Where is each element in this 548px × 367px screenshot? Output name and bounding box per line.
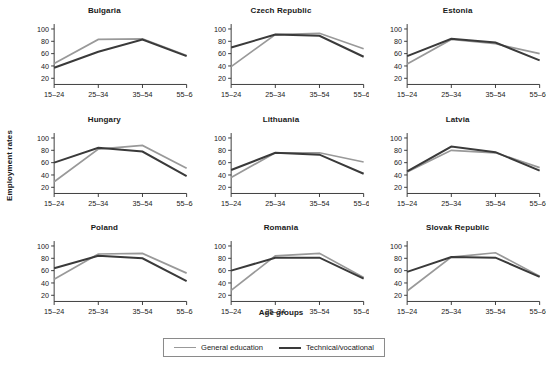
y-axis-tick-label: 80 [394,37,402,46]
x-axis-tick-label: 55–64 [177,90,193,99]
legend-item: General education [174,343,263,352]
y-axis-tick-label: 20 [218,291,226,300]
series-line-general-education [407,253,540,291]
y-axis-tick-label: 40 [218,279,226,288]
legend-label: General education [201,343,263,352]
x-axis-tick-label: 25–34 [442,198,462,207]
x-axis-tick-label: 25–34 [265,90,285,99]
panel-grid: Bulgaria2040608010015–2425–3435–5455–64C… [16,4,546,330]
panel-title: Bulgaria [16,6,193,15]
y-axis-tick-label: 60 [394,49,402,58]
y-axis-tick-label: 20 [41,291,49,300]
y-axis-tick-label: 40 [41,170,49,179]
series-line-general-education [231,254,364,291]
y-axis-tick-label: 20 [394,183,402,192]
panel-title: Poland [16,223,193,232]
chart-panel-latvia: Latvia2040608010015–2425–3435–5455–64 [369,113,546,222]
series-line-technical-vocational [407,146,540,171]
y-axis-tick-label: 100 [37,25,49,34]
y-axis-tick-label: 40 [394,279,402,288]
y-axis-label: Employment rates [2,0,16,330]
y-axis-tick-label: 40 [41,279,49,288]
chart-panel-lithuania: Lithuania2040608010015–2425–3435–5455–64 [193,113,370,222]
x-axis-tick-label: 15–24 [44,90,64,99]
y-axis-tick-label: 100 [214,133,226,142]
x-axis-tick-label: 35–54 [132,198,152,207]
legend-item: Technical/vocational [279,343,374,352]
y-axis-tick-label: 100 [214,242,226,251]
panel-plot-area: 2040608010015–2425–3435–5455–64 [369,18,546,113]
chart-figure: Employment rates Bulgaria2040608010015–2… [0,0,548,367]
y-axis-tick-label: 60 [41,158,49,167]
x-axis-tick-label: 35–54 [486,198,506,207]
x-axis-tick-label: 55–64 [353,90,369,99]
y-axis-tick-label: 40 [218,62,226,71]
series-line-general-education [54,145,186,181]
x-axis-tick-label: 35–54 [132,90,152,99]
x-axis-tick-label: 25–34 [442,90,462,99]
y-axis-tick-label: 40 [394,170,402,179]
panel-plot-area: 2040608010015–2425–3435–5455–64 [16,127,193,222]
x-axis-tick-label: 15–24 [221,90,241,99]
x-axis-tick-label: 35–54 [309,90,329,99]
panel-title: Latvia [369,115,546,124]
series-line-technical-vocational [54,147,186,175]
y-axis-tick-label: 40 [394,62,402,71]
x-axis-tick-label: 55–64 [353,198,369,207]
y-axis-tick-label: 20 [41,74,49,83]
x-axis-tick-label: 25–34 [88,90,108,99]
y-axis-tick-label: 40 [41,62,49,71]
y-axis-tick-label: 100 [214,25,226,34]
panel-plot-area: 2040608010015–2425–3435–5455–64 [369,127,546,222]
y-axis-tick-label: 60 [218,267,226,276]
y-axis-tick-label: 60 [41,267,49,276]
y-axis-tick-label: 60 [218,49,226,58]
series-line-technical-vocational [231,35,364,57]
series-line-technical-vocational [407,257,540,277]
legend-label: Technical/vocational [306,343,374,352]
y-axis-tick-label: 80 [41,37,49,46]
panel-plot-area: 2040608010015–2425–3435–5455–64 [16,18,193,113]
y-axis-tick-label: 80 [41,146,49,155]
legend-line-swatch [279,347,301,349]
y-axis-tick-label: 20 [41,183,49,192]
panel-plot-area: 2040608010015–2425–3435–5455–64 [193,18,370,113]
y-axis-tick-label: 100 [390,133,402,142]
y-axis-tick-label: 20 [218,183,226,192]
y-axis-tick-label: 20 [394,291,402,300]
x-axis-tick-label: 55–64 [177,198,193,207]
y-axis-tick-label: 100 [390,25,402,34]
x-axis-tick-label: 35–54 [486,90,506,99]
chart-legend: General educationTechnical/vocational [163,338,385,357]
series-line-general-education [231,33,364,66]
y-axis-tick-label: 40 [218,170,226,179]
panel-title: Romania [193,223,370,232]
x-axis-tick-label: 25–34 [88,198,108,207]
y-axis-tick-label: 100 [37,242,49,251]
panel-title: Estonia [369,6,546,15]
y-axis-tick-label: 80 [394,254,402,263]
x-axis-tick-label: 15–24 [397,198,417,207]
x-axis-tick-label: 55–64 [530,198,546,207]
series-line-technical-vocational [231,152,364,173]
chart-panel-bulgaria: Bulgaria2040608010015–2425–3435–5455–64 [16,4,193,113]
x-axis-label: Age groups [16,308,546,317]
y-axis-tick-label: 60 [41,49,49,58]
y-axis-tick-label: 20 [394,74,402,83]
y-axis-tick-label: 60 [394,158,402,167]
x-axis-tick-label: 15–24 [397,90,417,99]
chart-panel-czech-republic: Czech Republic2040608010015–2425–3435–54… [193,4,370,113]
panel-title: Slovak Republic [369,223,546,232]
y-axis-tick-label: 60 [394,267,402,276]
panel-title: Lithuania [193,115,370,124]
panel-plot-area: 2040608010015–2425–3435–5455–64 [193,127,370,222]
y-axis-tick-label: 80 [41,254,49,263]
legend-line-swatch [174,347,196,348]
y-axis-tick-label: 100 [390,242,402,251]
y-axis-tick-label: 20 [218,74,226,83]
y-axis-tick-label: 80 [394,146,402,155]
y-axis-tick-label: 60 [218,158,226,167]
x-axis-tick-label: 15–24 [221,198,241,207]
y-axis-label-text: Employment rates [5,130,14,201]
y-axis-tick-label: 80 [218,146,226,155]
